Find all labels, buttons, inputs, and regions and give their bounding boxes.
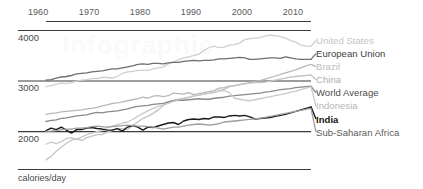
legend-item-china[interactable]: China: [316, 73, 423, 86]
legend-item-world-average[interactable]: World Average: [316, 86, 423, 99]
legend-item-sub-saharan-africa[interactable]: Sub-Saharan Africa: [316, 126, 423, 139]
series-line-india: [46, 107, 311, 133]
calories-per-day-line-chart: Infographic 196019701980199020002010 400…: [0, 0, 423, 189]
x-tick-1970: 1970: [79, 7, 99, 17]
y-axis-unit-label: calories/day: [18, 173, 66, 183]
x-tick-2000: 2000: [232, 7, 252, 17]
x-tick-1990: 1990: [181, 7, 201, 17]
x-tick-2010: 2010: [283, 7, 303, 17]
legend-item-indonesia[interactable]: Indonesia: [316, 99, 423, 112]
series-line-sub-saharan-africa: [46, 108, 311, 131]
x-tick-1960: 1960: [28, 7, 48, 17]
y-tick-2000: 2000: [18, 133, 39, 144]
y-tick-3000: 3000: [18, 82, 39, 93]
x-tick-1980: 1980: [130, 7, 150, 17]
series-line-united-states: [46, 35, 311, 87]
legend-item-india[interactable]: India: [316, 113, 423, 126]
chart-legend: United StatesEuropean UnionBrazilChinaWo…: [316, 34, 423, 139]
series-line-brazil: [46, 64, 311, 114]
legend-item-brazil[interactable]: Brazil: [316, 60, 423, 73]
legend-item-united-states[interactable]: United States: [316, 34, 423, 47]
legend-item-european-union[interactable]: European Union: [316, 47, 423, 60]
y-tick-4000: 4000: [18, 32, 39, 43]
